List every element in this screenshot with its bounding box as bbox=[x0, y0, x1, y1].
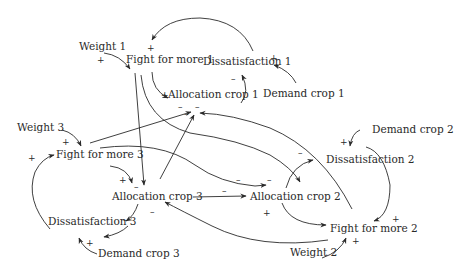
edge-demand1-dissat1 bbox=[274, 65, 296, 83]
sign-alloc3-alloc2: – bbox=[222, 186, 227, 196]
sign-alloc1-dissat1: – bbox=[231, 74, 236, 84]
node-fight-for-more-1: Fight for more 1 bbox=[126, 53, 214, 65]
sign-fight1-alloc3: – bbox=[134, 182, 139, 192]
edge-alloc2-fight2 bbox=[282, 203, 326, 225]
node-dissatisfaction-2: Dissatisfaction 2 bbox=[326, 153, 415, 165]
node-fight-for-more-3: Fight for more 3 bbox=[56, 148, 144, 160]
causal-loop-diagram: Weight 1 Fight for more 1 Dissatisfactio… bbox=[0, 0, 456, 273]
sign-alloc3-dissat3: – bbox=[123, 215, 128, 225]
sign-fight1-alloc1: + bbox=[161, 90, 169, 100]
sign-demand1-dissat1: + bbox=[270, 53, 278, 63]
sign-alloc1-in-b: – bbox=[195, 102, 200, 112]
sign-alloc2-dissat2: – bbox=[298, 148, 303, 158]
edge-demand2-dissat2 bbox=[350, 130, 360, 146]
sign-dissat1-fight1: + bbox=[147, 43, 155, 53]
edge-alloc3-alloc1 bbox=[160, 115, 194, 179]
sign-alloc1-in-c: – bbox=[184, 109, 189, 119]
edge-alloc2-dissat2 bbox=[286, 160, 313, 188]
node-fight-for-more-2: Fight for more 2 bbox=[330, 222, 418, 234]
sign-weight2-fight2: + bbox=[352, 236, 360, 246]
edge-dissat1-fight1 bbox=[152, 18, 253, 51]
node-dissatisfaction-1: Dissatisfaction 1 bbox=[203, 55, 292, 67]
node-demand-crop-3: Demand crop 3 bbox=[98, 247, 180, 259]
nodes: Weight 1 Fight for more 1 Dissatisfactio… bbox=[17, 40, 454, 259]
node-allocation-crop-1: Allocation crop 1 bbox=[167, 88, 259, 100]
node-demand-crop-2: Demand crop 2 bbox=[372, 123, 454, 135]
sign-fight2-alloc3: – bbox=[150, 207, 155, 217]
sign-alloc1-in-a: – bbox=[178, 102, 183, 112]
sign-alloc2-fight2: + bbox=[263, 208, 271, 218]
sign-fight1-alloc2: – bbox=[267, 175, 272, 185]
node-weight-3: Weight 3 bbox=[17, 121, 64, 133]
node-demand-crop-1: Demand crop 1 bbox=[263, 87, 345, 99]
node-allocation-crop-2: Allocation crop 2 bbox=[249, 190, 341, 202]
sign-demand2-dissat2: + bbox=[340, 137, 348, 147]
sign-dissat2-fight2: + bbox=[392, 214, 400, 224]
sign-fight3-alloc2: – bbox=[236, 175, 241, 185]
sign-weight1-fight1: + bbox=[97, 55, 105, 65]
sign-fight3-alloc3: + bbox=[119, 175, 127, 185]
sign-demand3-dissat3: + bbox=[86, 238, 94, 248]
node-weight-1: Weight 1 bbox=[79, 40, 126, 52]
node-allocation-crop-3: Allocation crop 3 bbox=[111, 190, 203, 202]
node-weight-2: Weight 2 bbox=[290, 246, 337, 258]
sign-weight3-fight3: + bbox=[62, 137, 70, 147]
edge-alloc3-dissat3b bbox=[104, 226, 128, 237]
sign-dissat3-fight3: + bbox=[28, 153, 36, 163]
